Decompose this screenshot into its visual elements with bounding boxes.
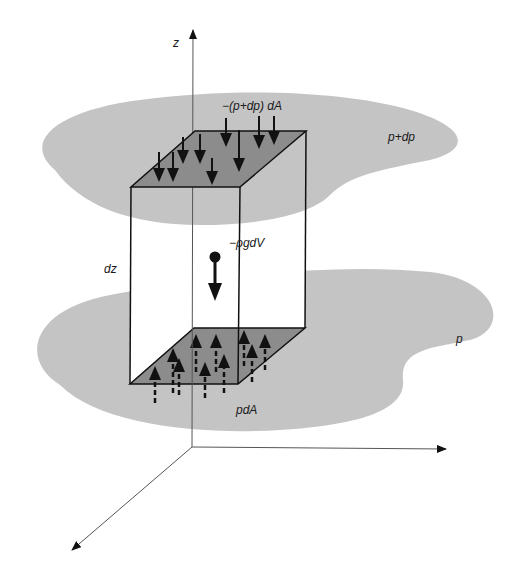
hydrostatic-diagram: z −(p+dp) dA p+dp −ρgdV dz p pdA [0, 0, 524, 570]
top-plane-pressure-label: p+dp [387, 130, 415, 144]
faded-caption [0, 555, 524, 567]
y-axis [72, 447, 192, 550]
bottom-plane-pressure-label: p [455, 332, 463, 346]
x-axis [192, 447, 446, 449]
weight-label: −ρgdV [229, 236, 265, 250]
z-axis-label: z [172, 36, 179, 50]
height-label: dz [104, 262, 117, 276]
top-force-label: −(p+dp) dA [222, 99, 282, 113]
bottom-force-label: pdA [235, 403, 257, 417]
